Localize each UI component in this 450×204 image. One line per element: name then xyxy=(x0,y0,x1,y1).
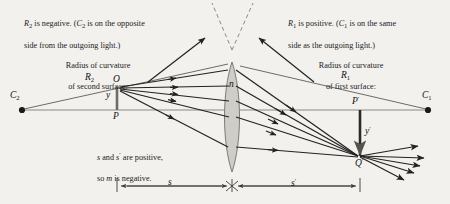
caption-radius-second-line1: Radius of curvature xyxy=(66,61,131,70)
center-of-curvature-c2-point xyxy=(19,107,25,113)
figure-canvas: R2 is negative. (C2 is on the opposite s… xyxy=(0,0,450,204)
caption-r1-sign: R1 is positive. (C1 is on the same side … xyxy=(288,8,450,52)
caption-r2-line1: R2 is negative. (C2 is on the opposite xyxy=(24,19,145,28)
label-object-foot-p: P xyxy=(113,111,119,121)
center-of-curvature-c1-point xyxy=(425,107,431,113)
caption-radius-second-surface: Radius of curvature of second surface: xyxy=(38,50,158,92)
label-c1: C1 xyxy=(422,90,432,101)
caption-radius-first-surface: Radius of curvature of first surface: xyxy=(292,50,410,92)
dashed-construction-lines xyxy=(212,3,253,50)
caption-radius-first-line1: Radius of curvature xyxy=(319,61,384,70)
label-object-distance-s: s xyxy=(168,177,172,187)
caption-r1-line2: side as the outgoing light.) xyxy=(288,41,375,50)
caption-r2-sign: R2 is negative. (C2 is on the opposite s… xyxy=(24,8,214,52)
label-r1: R1 xyxy=(341,70,350,81)
ray-bundle-diverging xyxy=(360,146,424,180)
label-refractive-index-n: n xyxy=(229,79,234,89)
label-image-height-y-prime: y′ xyxy=(365,125,371,136)
caption-radius-first-line2: of first surface: xyxy=(326,82,376,91)
label-r2: R2 xyxy=(85,72,94,83)
label-image-distance-s-prime: s′ xyxy=(291,177,296,188)
caption-sign-note: s and s′ are positive, so m is negative. xyxy=(97,140,217,185)
caption-sign-note-line1: s and s′ are positive, xyxy=(97,153,163,162)
caption-sign-note-line2: so m is negative. xyxy=(97,174,152,183)
ray-arrowheads-incident xyxy=(166,78,178,119)
label-object-height-y: y xyxy=(106,90,110,100)
label-image-foot-p-prime: P′ xyxy=(352,95,359,106)
caption-r2-line2: side from the outgoing light.) xyxy=(24,41,120,50)
label-image-point-q-prime: Q′ xyxy=(355,157,363,168)
label-c2: C2 xyxy=(10,90,20,101)
caption-r1-line1: R1 is positive. (C1 is on the same xyxy=(288,19,396,28)
label-object-point-q: O xyxy=(113,74,120,84)
